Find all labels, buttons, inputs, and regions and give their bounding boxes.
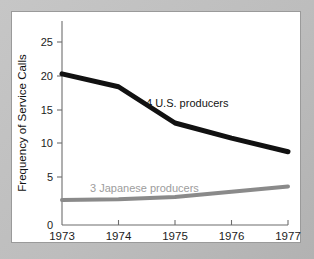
x-tick-label-1975: 1975 [162,230,188,242]
y-tick-label-10: 10 [41,137,53,149]
x-tick-label-1973: 1973 [49,230,75,242]
series-annotation-japanese-producers: 3 Japanese producers [90,182,199,194]
y-tick-label-15: 15 [41,104,53,116]
line-chart-svg: 25 20 15 10 5 0 1973 1974 1975 1976 1977… [12,12,302,244]
y-axis-title: Frequency of Service Calls [16,54,28,192]
chart-figure: 25 20 15 10 5 0 1973 1974 1975 1976 1977… [0,0,314,259]
chart-panel: 25 20 15 10 5 0 1973 1974 1975 1976 1977… [11,11,301,243]
series-annotation-us-producers: 4 U.S. producers [146,97,229,109]
y-tick-label-5: 5 [47,171,53,183]
plot-area: 25 20 15 10 5 0 1973 1974 1975 1976 1977… [12,12,302,244]
x-tick-label-1976: 1976 [219,230,245,242]
y-tick-label-25: 25 [41,36,53,48]
x-tick-label-1974: 1974 [106,230,132,242]
series-line-us-producers [62,74,288,152]
y-tick-label-20: 20 [41,70,53,82]
x-tick-label-1977: 1977 [275,230,301,242]
